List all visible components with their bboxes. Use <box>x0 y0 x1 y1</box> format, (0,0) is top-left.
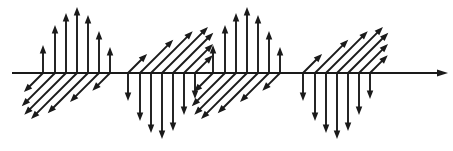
group-1-diagonal-arrow-3-shaft <box>29 73 66 110</box>
group-4-vertical-arrow-4-head <box>334 131 341 140</box>
group-2-vertical-arrow-4 <box>159 73 166 139</box>
group-4-vertical-arrow-6-head <box>356 107 363 116</box>
group-3-vertical-arrow-6-head <box>266 31 273 40</box>
group-4-diagonal-arrow-3 <box>326 31 368 73</box>
group-4-vertical-arrow-2-head <box>312 113 319 122</box>
group-2-vertical-arrow-2-head <box>137 113 144 122</box>
group-3-diagonal-arrow-4 <box>201 73 247 119</box>
group-2-diagonal-arrow-6-shaft <box>184 48 209 73</box>
group-1-diagonal-arrow-1 <box>24 73 43 92</box>
group-3-vertical-arrow-5 <box>255 15 262 73</box>
group-3-vertical-arrow-4 <box>244 7 251 73</box>
group-1-vertical-arrow-2 <box>52 25 59 73</box>
group-3-diagonal-arrow-5-shaft <box>222 73 258 109</box>
group-2-vertical-arrow-1-head <box>125 93 132 102</box>
group-3-vertical-arrow-3-head <box>233 13 240 22</box>
group-2-vertical-arrow-5-head <box>170 123 177 132</box>
group-4-diagonal-arrow-6-shaft <box>359 48 384 73</box>
group-1-diagonal-arrow-3 <box>24 73 66 115</box>
group-1-vertical-arrow-3-head <box>63 13 70 22</box>
group-2-vertical-arrow-2 <box>137 73 144 121</box>
group-4-diagonal-arrow-3-shaft <box>326 36 363 73</box>
group-4-vertical-arrow-1-head <box>300 93 307 102</box>
group-2-vertical-arrow-1 <box>125 73 132 101</box>
group-1-diagonal-arrow-5-shaft <box>52 73 88 109</box>
group-3-diagonal-arrow-7-shaft <box>267 73 280 86</box>
group-4-vertical-arrow-2 <box>312 73 319 121</box>
group-1-diagonal-arrow-5 <box>48 73 88 113</box>
group-4-vertical-arrow-5-head <box>345 123 352 132</box>
group-3-vertical-arrow-6 <box>266 31 273 73</box>
group-1-vertical-arrow-7 <box>107 47 114 73</box>
group-3-vertical-arrow-7-head <box>277 47 284 56</box>
group-3-diagonal-arrow-1 <box>194 73 213 92</box>
group-3-diagonal-arrow-4-shaft <box>205 73 247 115</box>
group-4-vertical-arrow-7 <box>367 73 374 99</box>
group-4-diagonal-arrow-7 <box>370 55 388 73</box>
vector-canvas <box>0 0 453 151</box>
vector-diagram-figure <box>0 0 453 151</box>
group-1-vertical-arrow-1 <box>40 45 47 73</box>
group-4-vertical-arrow-3 <box>323 73 330 133</box>
group-2 <box>125 27 214 139</box>
group-3-diagonal-arrow-7 <box>262 73 280 91</box>
group-2-vertical-arrow-6 <box>181 73 188 115</box>
group-4 <box>300 27 389 139</box>
group-4-diagonal-arrow-5 <box>348 33 388 73</box>
group-3-vertical-arrow-5-head <box>255 15 262 24</box>
group-2-vertical-arrow-7-head <box>192 91 199 100</box>
group-1-vertical-arrow-5 <box>85 15 92 73</box>
group-1-diagonal-arrow-7-shaft <box>97 73 110 86</box>
group-1-diagonal-arrow-4-shaft <box>35 73 77 115</box>
group-1 <box>22 7 113 119</box>
group-4-vertical-arrow-5 <box>345 73 352 131</box>
group-2-vertical-arrow-4-head <box>159 131 166 140</box>
group-4-vertical-arrow-3-head <box>323 125 330 134</box>
group-2-diagonal-arrow-7 <box>195 55 213 73</box>
group-3-vertical-arrow-2-head <box>222 25 229 34</box>
group-4-vertical-arrow-4 <box>334 73 341 139</box>
group-2-diagonal-arrow-5-shaft <box>173 37 209 73</box>
group-3-vertical-arrow-2 <box>222 25 229 73</box>
group-1-vertical-arrow-5-head <box>85 15 92 24</box>
group-2-diagonal-arrow-3-shaft <box>151 36 188 73</box>
group-4-diagonal-arrow-7-shaft <box>370 60 383 73</box>
group-1-diagonal-arrow-7 <box>92 73 110 91</box>
axis-arrow-head <box>437 70 448 77</box>
group-2-vertical-arrow-3 <box>148 73 155 133</box>
group-1-vertical-arrow-1-head <box>40 45 47 54</box>
group-3-diagonal-arrow-3-shaft <box>199 73 236 110</box>
group-4-diagonal-arrow-1 <box>303 54 322 73</box>
group-2-vertical-arrow-6-head <box>181 107 188 116</box>
group-2-vertical-arrow-5 <box>170 73 177 131</box>
group-1-vertical-arrow-3 <box>63 13 70 73</box>
group-2-diagonal-arrow-3 <box>151 31 193 73</box>
group-2-diagonal-arrow-1-shaft <box>128 58 143 73</box>
group-4-vertical-arrow-6 <box>356 73 363 115</box>
group-1-vertical-arrow-6-head <box>96 31 103 40</box>
group-3-vertical-arrow-7 <box>277 47 284 73</box>
group-3-diagonal-arrow-5 <box>218 73 258 113</box>
group-1-vertical-arrow-7-head <box>107 47 114 56</box>
group-4-vertical-arrow-7-head <box>367 91 374 100</box>
group-1-vertical-arrow-2-head <box>52 25 59 34</box>
group-1-vertical-arrow-4 <box>74 7 81 73</box>
group-4-vertical-arrow-1 <box>300 73 307 101</box>
group-2-diagonal-arrow-5 <box>173 33 213 73</box>
group-1-diagonal-arrow-4 <box>31 73 77 119</box>
group-2-diagonal-arrow-4-shaft <box>162 31 204 73</box>
group-2-diagonal-arrow-7-shaft <box>195 60 208 73</box>
group-4-diagonal-arrow-5-shaft <box>348 37 384 73</box>
group-2-vertical-arrow-3-head <box>148 125 155 134</box>
group-1-vertical-arrow-6 <box>96 31 103 73</box>
group-3-diagonal-arrow-1-shaft <box>198 73 213 88</box>
group-4-diagonal-arrow-4-shaft <box>337 31 379 73</box>
group-3-vertical-arrow-3 <box>233 13 240 73</box>
group-3-diagonal-arrow-3 <box>194 73 236 115</box>
group-1-vertical-arrow-4-head <box>74 7 81 16</box>
group-2-diagonal-arrow-1 <box>128 54 147 73</box>
group-4-diagonal-arrow-1-shaft <box>303 58 318 73</box>
group-1-diagonal-arrow-1-shaft <box>28 73 43 88</box>
group-3-vertical-arrow-4-head <box>244 7 251 16</box>
